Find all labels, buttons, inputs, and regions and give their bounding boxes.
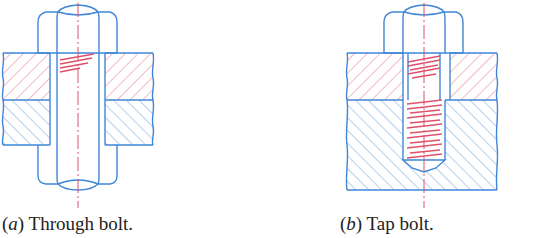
caption-text: Through bolt. bbox=[24, 213, 133, 234]
bolt-diagrams bbox=[0, 0, 536, 210]
caption-through-bolt: (a) Through bolt. bbox=[2, 213, 133, 235]
caption-text: Tap bolt. bbox=[362, 213, 434, 234]
caption-tap-bolt: (b) Tap bolt. bbox=[340, 213, 434, 235]
tap-bolt-figure bbox=[346, 3, 497, 208]
caption-letter: a bbox=[8, 213, 18, 234]
caption-letter: b bbox=[346, 213, 356, 234]
thread-marks bbox=[60, 54, 94, 72]
bottom-block bbox=[347, 100, 497, 190]
through-bolt-figure bbox=[2, 3, 153, 208]
